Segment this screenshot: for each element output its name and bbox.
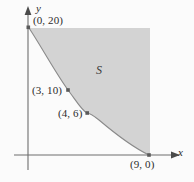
- point-marker-p2: [85, 111, 89, 115]
- region-label-s: S: [96, 63, 102, 78]
- point-marker-p3: [147, 153, 151, 157]
- point-label-0-20: (0, 20): [33, 14, 63, 26]
- y-axis-arrow-icon: [25, 6, 32, 15]
- point-label-3-10: (3, 10): [32, 84, 62, 96]
- point-marker-p0: [27, 26, 31, 30]
- y-axis-label: y: [36, 2, 41, 14]
- point-marker-p1: [66, 88, 70, 92]
- point-label-4-6: (4, 6): [58, 107, 82, 119]
- x-axis-label: x: [178, 146, 183, 158]
- point-label-9-0: (9, 0): [130, 158, 154, 170]
- math-region-figure: (0, 20) (3, 10) (4, 6) (9, 0) y x S: [0, 0, 194, 182]
- plot-canvas: [0, 0, 194, 182]
